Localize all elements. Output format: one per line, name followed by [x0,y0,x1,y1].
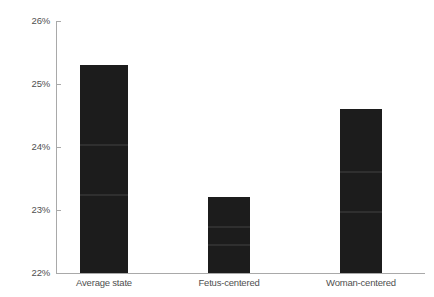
x-axis-line [56,273,425,274]
x-axis-label: Fetus-centered [198,278,259,288]
y-axis-label: 22% [4,268,50,278]
y-axis-label: 24% [4,142,50,152]
bar[interactable] [208,197,250,273]
plot-area [56,21,425,273]
bar[interactable] [80,65,128,273]
bar[interactable] [340,109,382,273]
y-axis-label: 25% [4,79,50,89]
y-axis-label: 26% [4,16,50,26]
x-axis-label: Average state [76,278,132,288]
bar-chart: 22%23%24%25%26% Average stateFetus-cente… [0,0,434,297]
x-axis-label: Woman-centered [326,278,396,288]
y-axis-label: 23% [4,205,50,215]
